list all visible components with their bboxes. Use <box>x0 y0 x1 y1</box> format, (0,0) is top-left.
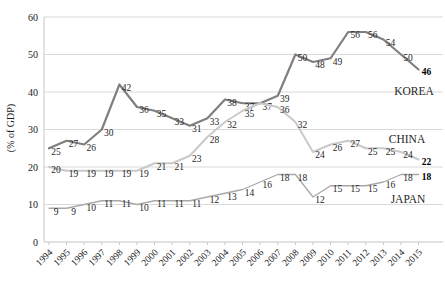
japan-data-label: 15 <box>350 184 360 194</box>
china-data-label: 21 <box>174 162 184 172</box>
japan-data-label: 15 <box>368 184 378 194</box>
x-tick-label: 1994 <box>34 247 55 268</box>
x-tick-label: 1999 <box>122 247 143 268</box>
japan-data-label: 12 <box>315 195 325 205</box>
x-tick-label: 1997 <box>87 247 108 268</box>
korea-data-label: 56 <box>350 30 360 40</box>
japan-data-label: 14 <box>245 188 255 198</box>
japan-data-label: 18 <box>403 173 413 183</box>
x-tick-label: 2014 <box>386 247 407 268</box>
japan-data-label: 18 <box>280 173 290 183</box>
korea-data-label: 35 <box>157 109 167 119</box>
japan-data-label: 10 <box>139 203 149 213</box>
korea-data-label: 30 <box>104 128 114 138</box>
japan-data-label: 18 <box>298 173 308 183</box>
korea-data-label: 46 <box>422 67 432 77</box>
korea-data-label: 48 <box>315 60 325 70</box>
y-tick-label: 10 <box>28 199 38 210</box>
china-data-label: 27 <box>350 139 360 149</box>
y-tick-label: 20 <box>28 162 38 173</box>
korea-data-label: 25 <box>51 147 61 157</box>
x-tick-label: 2003 <box>192 247 213 268</box>
x-tick-label: 2006 <box>245 247 266 268</box>
china-data-label: 36 <box>280 105 290 115</box>
japan-data-label: 16 <box>386 180 396 190</box>
china-data-label: 19 <box>122 169 132 179</box>
x-tick-label: 2012 <box>351 247 372 268</box>
x-tick-label: 1998 <box>104 247 125 268</box>
korea-data-label: 36 <box>139 105 149 115</box>
x-tick-label: 2013 <box>368 247 389 268</box>
china-data-label: 21 <box>157 162 167 172</box>
x-tick-label: 2011 <box>333 247 353 267</box>
japan-series-name-label: JAPAN <box>391 193 426 205</box>
china-data-label: 19 <box>104 169 114 179</box>
japan-data-label: 12 <box>210 195 220 205</box>
korea-data-label: 50 <box>403 53 413 63</box>
x-tick-label: 2000 <box>140 247 161 268</box>
x-tick-label: 2002 <box>175 247 196 268</box>
japan-data-label: 11 <box>104 199 113 209</box>
japan-data-label: 11 <box>157 199 166 209</box>
japan-data-label: 9 <box>71 207 76 217</box>
korea-data-label: 49 <box>333 57 343 67</box>
x-tick-label: 2010 <box>316 247 337 268</box>
y-tick-label: 50 <box>28 49 38 60</box>
y-tick-label: 60 <box>28 12 38 23</box>
y-axis-title: (% of GDP) <box>5 104 17 152</box>
korea-data-label: 42 <box>122 83 132 93</box>
korea-data-label: 39 <box>280 94 290 104</box>
china-data-label: 24 <box>315 150 325 160</box>
x-tick-label: 1995 <box>52 247 73 268</box>
x-tick-label: 2001 <box>157 247 178 268</box>
japan-data-label: 16 <box>262 180 272 190</box>
japan-data-label: 11 <box>175 199 184 209</box>
korea-data-label: 56 <box>368 30 378 40</box>
china-data-label: 25 <box>368 147 378 157</box>
x-tick-label: 2005 <box>228 247 249 268</box>
x-tick-label: 2009 <box>298 247 319 268</box>
china-data-label: 20 <box>51 165 61 175</box>
y-tick-label: 0 <box>33 237 38 248</box>
china-data-label: 22 <box>422 157 432 167</box>
korea-data-label: 33 <box>174 117 184 127</box>
japan-data-label: 18 <box>422 172 432 182</box>
china-data-label: 24 <box>403 150 413 160</box>
china-data-label: 28 <box>210 135 220 145</box>
japan-data-label: 13 <box>227 192 237 202</box>
y-tick-label: 40 <box>28 87 38 98</box>
japan-data-label: 10 <box>86 203 96 213</box>
korea-data-label: 27 <box>69 139 79 149</box>
china-series-name-label: CHINA <box>389 133 426 145</box>
china-data-label: 35 <box>245 109 255 119</box>
china-data-label: 19 <box>139 169 149 179</box>
x-tick-label: 1996 <box>69 247 90 268</box>
japan-data-label: 11 <box>192 199 201 209</box>
china-data-label: 32 <box>298 120 308 130</box>
line-chart: 0102030405060(% of GDP)19941995199619971… <box>0 0 445 286</box>
x-tick-label: 2007 <box>263 247 284 268</box>
china-data-label: 19 <box>69 169 79 179</box>
japan-data-label: 11 <box>122 199 131 209</box>
x-tick-label: 2004 <box>210 247 231 268</box>
china-data-label: 19 <box>86 169 96 179</box>
korea-data-label: 31 <box>192 124 202 134</box>
china-data-label: 23 <box>192 154 202 164</box>
korea-data-label: 26 <box>86 143 96 153</box>
korea-data-label: 54 <box>386 38 396 48</box>
y-tick-label: 30 <box>28 124 38 135</box>
korea-data-label: 33 <box>210 117 220 127</box>
china-data-label: 32 <box>227 120 237 130</box>
korea-series-name-label: KOREA <box>394 85 434 97</box>
japan-data-label: 9 <box>54 207 59 217</box>
chart-canvas: 0102030405060(% of GDP)19941995199619971… <box>0 0 445 286</box>
x-tick-label: 2015 <box>404 247 425 268</box>
x-tick-label: 2008 <box>280 247 301 268</box>
korea-data-label: 50 <box>298 53 308 63</box>
china-data-label: 25 <box>386 147 396 157</box>
korea-data-label: 38 <box>227 98 237 108</box>
china-data-label: 26 <box>333 143 343 153</box>
japan-data-label: 15 <box>333 184 343 194</box>
